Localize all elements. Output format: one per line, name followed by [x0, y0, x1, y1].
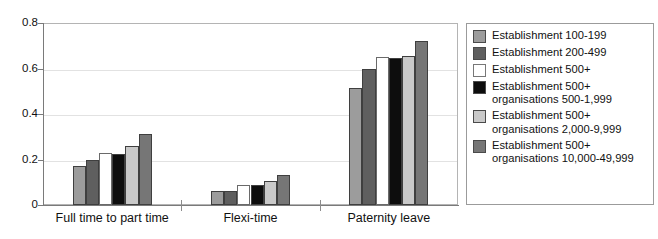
y-tick-mark [38, 114, 43, 115]
legend-label: Establishment 100-199 [492, 29, 606, 42]
bars-layer [43, 23, 458, 205]
y-tick-label: 0.4 [4, 108, 38, 120]
x-axis-group-separator [320, 200, 321, 211]
y-tick-mark [38, 160, 43, 161]
legend-item[interactable]: Establishment 500+ organisations 10,000-… [473, 139, 649, 165]
y-tick-mark [38, 205, 43, 206]
x-axis-category-label: Full time to part time [43, 211, 181, 225]
legend-label: Establishment 500+ [492, 63, 591, 76]
bar [237, 185, 250, 205]
legend-label: Establishment 200-499 [492, 46, 606, 59]
legend-swatch-icon [473, 30, 486, 43]
chart-legend: Establishment 100-199Establishment 200-4… [466, 23, 654, 205]
legend-item[interactable]: Establishment 100-199 [473, 29, 649, 43]
legend-item[interactable]: Establishment 500+ [473, 63, 649, 77]
bar [349, 88, 362, 205]
bar [277, 175, 290, 205]
x-axis-group-separator [181, 200, 182, 211]
legend-item[interactable]: Establishment 200-499 [473, 46, 649, 60]
x-axis-category-label: Flexi-time [181, 211, 319, 225]
y-tick-label: 0 [4, 199, 38, 211]
y-tick-label: 0.2 [4, 154, 38, 166]
bar [99, 153, 112, 205]
bar [139, 134, 152, 205]
bar [402, 56, 415, 205]
x-axis-line [43, 205, 459, 206]
y-tick-label: 0.6 [4, 63, 38, 75]
legend-swatch-icon [473, 81, 486, 94]
bar [376, 57, 389, 205]
legend-label: Establishment 500+ organisations 10,000-… [492, 139, 634, 165]
legend-swatch-icon [473, 64, 486, 77]
y-tick-mark [38, 69, 43, 70]
bar [415, 41, 428, 205]
bar [389, 58, 402, 205]
bar [112, 154, 125, 205]
bar [251, 185, 264, 205]
bar [224, 191, 237, 205]
bar [362, 69, 375, 206]
y-tick-label: 0.8 [4, 17, 38, 29]
legend-label: Establishment 500+ organisations 500-1,9… [492, 80, 612, 106]
bar [125, 146, 138, 205]
bar [211, 191, 224, 205]
chart-figure: · · · · · · ·· ·· · · 00.20.40.60.8 Full… [0, 0, 658, 239]
legend-item[interactable]: Establishment 500+ organisations 2,000-9… [473, 109, 649, 135]
bar [73, 166, 86, 205]
y-tick-mark [38, 23, 43, 24]
bar [264, 181, 277, 205]
bar [86, 160, 99, 206]
legend-swatch-icon [473, 47, 486, 60]
top-caption-fragment: · · · · · · ·· ·· · · [0, 0, 658, 7]
legend-item[interactable]: Establishment 500+ organisations 500-1,9… [473, 80, 649, 106]
legend-label: Establishment 500+ organisations 2,000-9… [492, 109, 621, 135]
x-axis-category-label: Paternity leave [320, 211, 458, 225]
legend-swatch-icon [473, 110, 486, 123]
legend-swatch-icon [473, 140, 486, 153]
